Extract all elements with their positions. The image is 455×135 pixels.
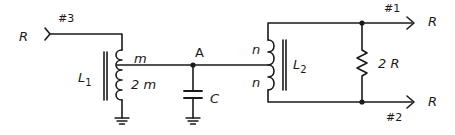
inductor-l2-coil-icon bbox=[268, 40, 274, 90]
l2-upper-turns-label: n bbox=[252, 43, 260, 56]
circuit-diagram: #3 R L1 m 2 m A C n n L2 2 R #1 R #2 R bbox=[0, 0, 455, 135]
output-1-load-label: R bbox=[428, 15, 437, 28]
inductor-l1-label: L1 bbox=[78, 71, 92, 84]
input-port-label: #3 bbox=[58, 13, 74, 24]
input-wire bbox=[50, 34, 122, 50]
capacitor-label: C bbox=[210, 92, 219, 105]
inductor-l2-subscript: 2 bbox=[300, 64, 306, 75]
output-1-port-label: #1 bbox=[384, 3, 400, 14]
ground-icon bbox=[115, 118, 129, 124]
resistor-label: 2 R bbox=[378, 57, 399, 70]
l1-lower-turns-label: 2 m bbox=[131, 78, 156, 91]
resistor-icon bbox=[357, 23, 367, 102]
output-2-port-label: #2 bbox=[386, 112, 402, 123]
input-source-label: R bbox=[19, 30, 28, 43]
inductor-l2-label: L2 bbox=[293, 58, 307, 71]
l1-upper-turns-label: m bbox=[134, 52, 147, 65]
inductor-l1-subscript: 1 bbox=[85, 77, 91, 88]
ground-icon bbox=[186, 118, 200, 124]
node-a-label: A bbox=[195, 46, 204, 59]
inductor-l1-coil-icon bbox=[116, 50, 122, 100]
l2-lower-turns-label: n bbox=[252, 76, 260, 89]
output-2-load-label: R bbox=[428, 95, 437, 108]
capacitor-icon bbox=[184, 91, 202, 98]
